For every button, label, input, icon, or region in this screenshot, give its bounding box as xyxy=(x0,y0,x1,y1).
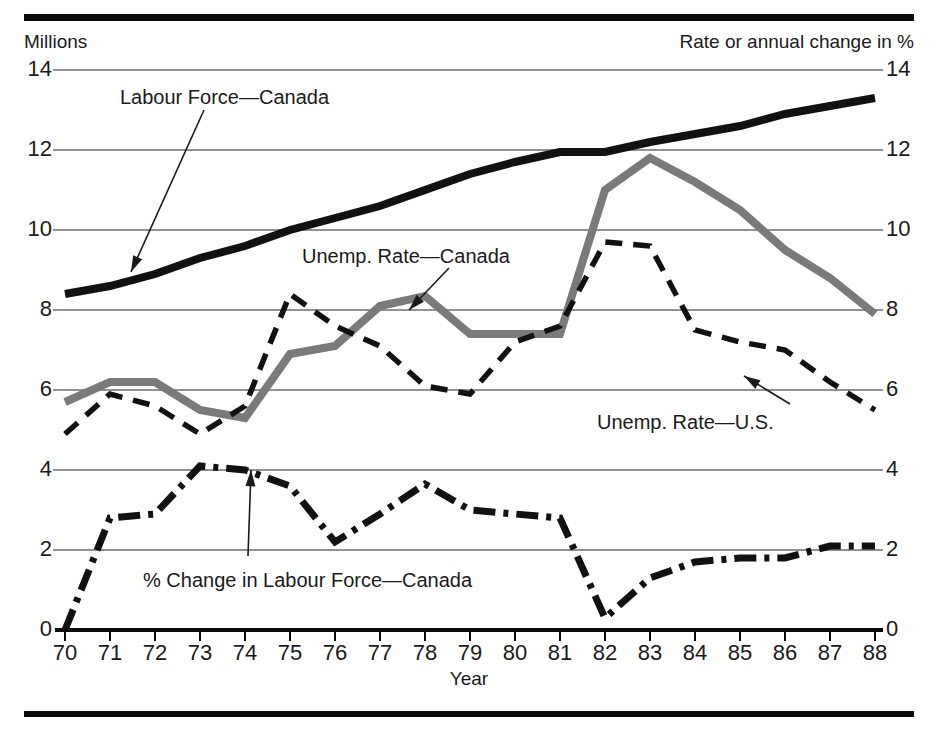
leader-labour-force xyxy=(131,110,204,272)
leader-labour-force-arrowhead xyxy=(131,255,142,272)
annotation-pct-change: % Change in Labour Force—Canada xyxy=(143,569,472,592)
annotation-unemp-canada: Unemp. Rate—Canada xyxy=(302,245,510,268)
leader-unemp-us-arrowhead xyxy=(744,376,760,389)
figure-panel: Millions Rate or annual change in % Year… xyxy=(0,0,938,732)
series-line-3 xyxy=(65,466,875,630)
annotation-labour-force: Labour Force—Canada xyxy=(120,86,329,109)
plot-area xyxy=(0,0,938,732)
annotation-unemp-us: Unemp. Rate—U.S. xyxy=(597,411,774,434)
